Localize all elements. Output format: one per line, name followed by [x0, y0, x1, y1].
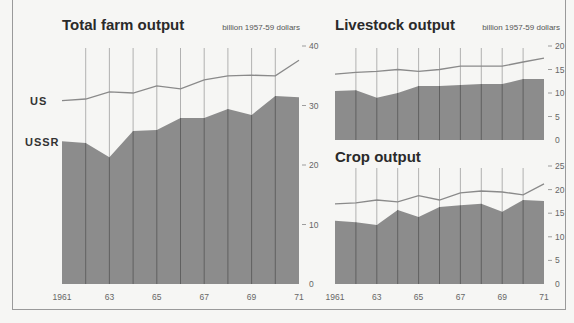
x-tick-label: 65 — [152, 292, 162, 302]
x-tick-label: 67 — [456, 292, 466, 302]
y-tick-label: 25 — [555, 161, 565, 171]
unit-label: billion 1957-59 dollars — [482, 23, 560, 32]
y-tick-label: 0 — [555, 279, 560, 289]
x-tick-label: 71 — [539, 292, 549, 302]
y-tick-label: 5 — [555, 112, 560, 122]
y-tick-label: 20 — [309, 160, 319, 170]
y-tick-label: 15 — [555, 208, 565, 218]
plot-area: 051015202519616365676971 — [326, 161, 565, 302]
us-series-label: US — [30, 95, 47, 107]
plot-area: 05101520 — [335, 41, 565, 145]
x-tick-label: 71 — [294, 292, 304, 302]
chart-title: Livestock output — [335, 16, 455, 33]
x-tick-label: 63 — [372, 292, 382, 302]
farm-output-figure: Total farm output billion 1957-59 dollar… — [0, 0, 574, 323]
livestock-output-chart: Livestock output billion 1957-59 dollars… — [335, 16, 565, 145]
x-tick-label: 1961 — [326, 292, 345, 302]
y-tick-label: 5 — [555, 255, 560, 265]
y-tick-label: 40 — [309, 41, 319, 51]
y-tick-label: 10 — [555, 232, 565, 242]
y-tick-label: 0 — [555, 135, 560, 145]
x-tick-label: 65 — [414, 292, 424, 302]
x-tick-label: 67 — [199, 292, 209, 302]
ussr-series-label: USSR — [25, 136, 60, 148]
y-tick-label: 30 — [309, 101, 319, 111]
crop-output-chart: Crop output 051015202519616365676971 — [326, 148, 565, 302]
total-farm-output-chart: Total farm output billion 1957-59 dollar… — [25, 16, 319, 302]
chart-title: Total farm output — [62, 16, 184, 33]
y-tick-label: 20 — [555, 185, 565, 195]
x-tick-label: 63 — [105, 292, 115, 302]
y-tick-label: 10 — [309, 220, 319, 230]
unit-label: billion 1957-59 dollars — [222, 23, 300, 32]
x-tick-label: 1961 — [53, 292, 72, 302]
y-tick-label: 10 — [555, 88, 565, 98]
x-tick-label: 69 — [247, 292, 257, 302]
y-tick-label: 20 — [555, 41, 565, 51]
y-tick-label: 0 — [309, 279, 314, 289]
y-tick-label: 15 — [555, 65, 565, 75]
chart-title: Crop output — [335, 148, 421, 165]
x-tick-label: 69 — [497, 292, 507, 302]
plot-area: 01020304019616365676971 — [53, 41, 319, 302]
